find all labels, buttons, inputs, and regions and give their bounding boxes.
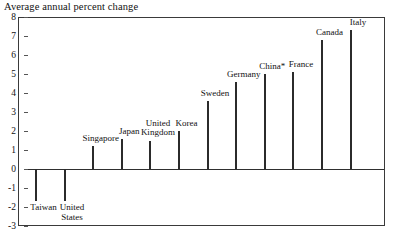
y-tick-mark [24, 150, 28, 151]
bar [92, 146, 94, 169]
plot-area: 876543210-1-2-3 TaiwanUnitedStatesSingap… [28, 17, 384, 226]
y-tick-mark [24, 93, 28, 94]
y-tick-label: 7 [2, 31, 16, 41]
bar [121, 139, 123, 169]
y-tick-mark [24, 226, 28, 227]
y-tick-label: 8 [2, 12, 16, 22]
y-tick-label: 6 [2, 50, 16, 60]
bar-label: Sweden [189, 89, 241, 99]
bar-label: France [275, 60, 327, 70]
y-tick-mark [24, 131, 28, 132]
bar [235, 82, 237, 169]
y-tick-label: -1 [2, 183, 16, 193]
y-tick-mark [24, 74, 28, 75]
bar-label: Canada [304, 28, 356, 38]
y-tick-label: 1 [2, 145, 16, 155]
bar [64, 169, 66, 201]
y-tick-mark [24, 112, 28, 113]
bar [178, 131, 180, 169]
bar [35, 169, 37, 201]
y-tick-mark [24, 55, 28, 56]
bar [350, 30, 352, 169]
bar-label: Korea [161, 119, 213, 129]
y-tick-label: 2 [2, 126, 16, 136]
zero-baseline [28, 169, 384, 170]
bar [264, 74, 266, 169]
y-tick-mark [24, 188, 28, 189]
bar-label: Italy [332, 18, 384, 28]
bar [207, 101, 209, 169]
bar [292, 72, 294, 169]
bar [149, 141, 151, 170]
y-tick-label: 5 [2, 69, 16, 79]
chart-title: Average annual percent change [4, 1, 138, 12]
chart-figure: Average annual percent change 876543210-… [0, 0, 400, 239]
y-tick-label: -3 [2, 221, 16, 231]
y-tick-label: 4 [2, 88, 16, 98]
y-tick-mark [24, 17, 28, 18]
bar-label: UnitedStates [46, 203, 98, 222]
bar [321, 40, 323, 169]
y-tick-mark [24, 36, 28, 37]
y-tick-label: -2 [2, 202, 16, 212]
y-tick-label: 0 [2, 164, 16, 174]
y-tick-label: 3 [2, 107, 16, 117]
